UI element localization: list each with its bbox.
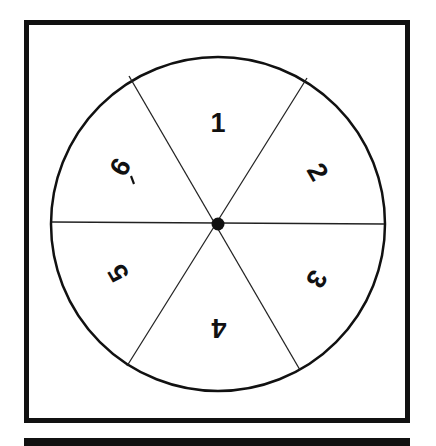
segment-label-1: 1 xyxy=(210,108,225,138)
segment-3: 3 xyxy=(300,265,333,293)
segment-1: 1 xyxy=(210,108,225,138)
segment-label-3: 3 xyxy=(300,265,333,293)
segment-5: 5 xyxy=(102,259,135,287)
segment-6: 6 xyxy=(104,153,137,184)
spinner-center-pin[interactable] xyxy=(212,218,225,231)
segment-label-2: 2 xyxy=(301,158,334,186)
segment-2: 2 xyxy=(301,158,334,186)
segment-label-5: 5 xyxy=(102,259,135,287)
six-underline-mark xyxy=(131,176,134,184)
segment-4: 4 xyxy=(211,313,226,343)
segment-label-4: 4 xyxy=(211,313,226,343)
